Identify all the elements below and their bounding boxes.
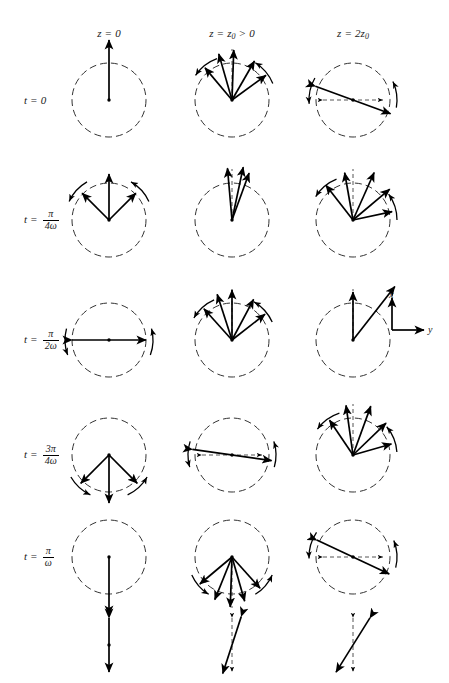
origin-dot <box>107 218 110 221</box>
rotation-arc-1 <box>150 329 153 355</box>
field-arrow-4 <box>232 75 266 100</box>
field-arrow-1 <box>345 173 353 220</box>
cell-t3pi4w-z2z0 <box>316 404 397 492</box>
rotation-arc-0 <box>65 329 68 355</box>
rotation-arc-0 <box>188 441 190 467</box>
cell-t0-zz0 <box>195 49 273 137</box>
field-arrow-0 <box>326 185 353 220</box>
origin-dot <box>351 555 354 558</box>
rotation-arc-0 <box>69 182 87 202</box>
rotation-arc-1 <box>394 541 397 568</box>
field-arrow-2 <box>353 406 371 455</box>
rotation-arc-1 <box>274 441 276 467</box>
cell-tpiw-z0 <box>72 520 146 615</box>
field-arrow-3 <box>232 61 255 100</box>
rotation-arc-0 <box>309 532 317 558</box>
vector-diagram-canvas <box>0 0 449 683</box>
origin-dot <box>230 98 233 101</box>
rotation-arc-1 <box>128 477 148 495</box>
rotation-arc-0 <box>309 78 315 104</box>
cell-tpi2w-z2z0 <box>316 286 395 377</box>
field-arrow-3 <box>232 299 254 340</box>
cell-tpi4w-z2z0 <box>316 169 397 257</box>
origin-dot <box>351 453 354 456</box>
cell-t0-z0 <box>72 40 146 137</box>
summary-row <box>107 616 370 673</box>
cell-tpiw-z2z0 <box>309 520 397 594</box>
rotation-arc-1 <box>393 81 397 107</box>
cell-t3pi4w-zz0 <box>188 418 276 492</box>
rotation-arc-1 <box>389 194 397 220</box>
summary-origin-dot <box>107 643 110 646</box>
field-arrow-4 <box>232 314 265 340</box>
cell-tpiw-zz0 <box>192 520 272 608</box>
field-arrow-2 <box>353 173 374 221</box>
field-arrow-2 <box>109 455 137 483</box>
origin-dot <box>107 338 110 341</box>
origin-dot <box>107 98 110 101</box>
cell-t0-z2z0 <box>309 63 397 137</box>
rotation-arc-1 <box>387 427 397 452</box>
cell-tpi4w-z0 <box>69 174 149 257</box>
cell-tpi4w-zz0 <box>195 167 269 257</box>
origin-dot <box>351 98 354 101</box>
origin-dot <box>230 453 233 456</box>
origin-dot <box>351 338 354 341</box>
origin-dot <box>351 218 354 221</box>
cells-layer <box>65 40 397 615</box>
rotation-arc-1 <box>131 182 149 202</box>
origin-dot <box>230 338 233 341</box>
axes-legend <box>392 298 424 330</box>
field-arrow-0 <box>81 455 109 483</box>
origin-dot <box>230 218 233 221</box>
field-arrow-0 <box>227 168 232 220</box>
origin-dot <box>107 453 110 456</box>
origin-dot <box>107 555 110 558</box>
field-arrow-1 <box>217 294 232 340</box>
figure-root: z = 0 z = z0 > 0 z = 2z0 t = 0 t = π4ω t… <box>0 0 449 683</box>
cell-t3pi4w-z0 <box>71 418 147 503</box>
rotation-arc-0 <box>71 477 91 495</box>
field-arrow-1 <box>353 286 395 340</box>
cell-tpi2w-z0 <box>65 303 153 377</box>
field-arrow-2 <box>109 193 136 220</box>
field-arrow-0 <box>82 193 109 220</box>
cell-tpi2w-zz0 <box>194 289 272 377</box>
origin-dot <box>230 555 233 558</box>
